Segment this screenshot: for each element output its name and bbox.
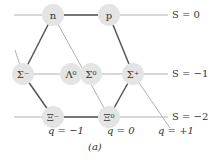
particle-lambda-0: Λ⁰ xyxy=(60,63,82,85)
particle-p: p xyxy=(98,4,120,26)
strangeness-label-0: S = 0 xyxy=(172,9,200,20)
figure-label: (a) xyxy=(88,141,102,152)
particle-sigma-0: Σ⁰ xyxy=(80,63,102,85)
charge-label-minus1: q = −1 xyxy=(48,125,84,136)
baryon-octet-diagram: n p Σ⁻ Λ⁰ Σ⁰ Σ⁺ Ξ⁻ Ξ⁰ S = 0 S = −1 S = −… xyxy=(0,0,211,168)
particle-sigma-plus: Σ⁺ xyxy=(122,63,144,85)
charge-label-0: q = 0 xyxy=(107,125,135,136)
particle-n: n xyxy=(42,4,64,26)
strangeness-label-minus1: S = −1 xyxy=(172,68,208,79)
particle-sigma-minus: Σ⁻ xyxy=(12,63,34,85)
strangeness-label-minus2: S = −2 xyxy=(172,111,208,122)
charge-label-plus1: q = +1 xyxy=(158,125,194,136)
